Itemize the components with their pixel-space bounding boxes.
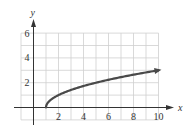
x-tick-label: 10 xyxy=(154,111,164,122)
x-tick-label: 8 xyxy=(131,111,136,122)
x-axis-arrow-icon xyxy=(166,105,174,110)
curve-arrow-icon xyxy=(154,68,161,74)
axes: x y xyxy=(14,7,183,125)
curve-series xyxy=(46,68,161,108)
y-axis-arrow-icon xyxy=(31,19,36,27)
function-graph: x y 246810246 xyxy=(0,0,192,136)
x-tick-label: 4 xyxy=(81,111,86,122)
x-axis-label: x xyxy=(177,102,183,113)
x-tick-label: 6 xyxy=(106,111,111,122)
y-tick-label: 2 xyxy=(25,77,30,88)
grid-lines xyxy=(21,33,159,120)
y-axis-label: y xyxy=(30,7,36,18)
curve-line xyxy=(46,70,159,107)
y-tick-label: 4 xyxy=(25,52,30,63)
x-tick-label: 2 xyxy=(56,111,61,122)
y-tick-label: 6 xyxy=(25,28,30,39)
